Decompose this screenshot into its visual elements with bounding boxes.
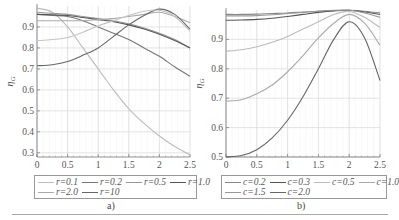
series-line bbox=[37, 12, 190, 48]
legend-label: r=0.1 bbox=[56, 177, 78, 187]
legend-label: c=0.5 bbox=[332, 177, 355, 187]
legend-item: c=0.5 bbox=[314, 177, 355, 187]
legend-item: r=0.2 bbox=[82, 177, 122, 187]
line-chart-b: 00.511.522.50.50.60.70.80.9ηηG bbox=[197, 0, 394, 170]
caption-b: b) bbox=[297, 200, 305, 211]
y-tick-label: 0.8 bbox=[22, 43, 34, 53]
y-tick-label: 0.3 bbox=[22, 148, 34, 158]
x-axis-label: η bbox=[301, 169, 306, 170]
y-tick-label: 0.8 bbox=[211, 64, 223, 74]
legend-label: c=0.3 bbox=[288, 177, 311, 187]
x-tick-label: 1 bbox=[285, 160, 290, 170]
x-axis-label: η bbox=[111, 169, 116, 170]
chart-panel-a: 00.511.522.50.30.40.50.60.70.80.9ηηG r=0… bbox=[0, 0, 197, 220]
bottom-divider bbox=[12, 214, 388, 215]
legend-swatch-icon bbox=[225, 182, 241, 183]
legend-item: c=2.0 bbox=[270, 187, 311, 197]
x-tick-label: 0.5 bbox=[251, 160, 263, 170]
legend-label: r=0.2 bbox=[100, 177, 122, 187]
y-axis-label: ηG bbox=[197, 78, 206, 88]
chart-panel-b: 00.511.522.50.50.60.70.80.9ηηG c=0.2c=0.… bbox=[197, 0, 394, 220]
series-line bbox=[226, 14, 380, 101]
x-tick-label: 1.5 bbox=[312, 160, 324, 170]
legend-label: r=10 bbox=[100, 187, 120, 197]
y-tick-label: 0.9 bbox=[211, 34, 223, 44]
x-tick-label: 1.5 bbox=[123, 160, 135, 170]
legend-swatch-icon bbox=[38, 182, 54, 183]
legend-label: c=0.2 bbox=[243, 177, 266, 187]
legend-item: r=2.0 bbox=[38, 187, 78, 197]
y-tick-label: 0.5 bbox=[22, 106, 34, 116]
line-chart-a: 00.511.522.50.30.40.50.60.70.80.9ηηG bbox=[0, 0, 197, 170]
legend-a: r=0.1r=0.2r=0.5r=1.0 r=2.0r=10 bbox=[34, 175, 197, 199]
y-tick-label: 0.7 bbox=[22, 64, 34, 74]
legend-swatch-icon bbox=[170, 182, 186, 183]
legend-swatch-icon bbox=[82, 182, 98, 183]
legend-label: c=1.5 bbox=[243, 187, 266, 197]
y-tick-label: 0.6 bbox=[211, 123, 223, 133]
legend-label: c=2.0 bbox=[288, 187, 311, 197]
legend-item: c=1.0 bbox=[359, 177, 399, 187]
x-tick-label: 0 bbox=[224, 160, 229, 170]
y-tick-label: 0.5 bbox=[211, 152, 223, 162]
legend-swatch-icon bbox=[82, 192, 98, 193]
legend-item: c=0.2 bbox=[225, 177, 266, 187]
legend-label: r=2.0 bbox=[56, 187, 78, 197]
x-tick-label: 2 bbox=[157, 160, 162, 170]
x-tick-label: 0.5 bbox=[62, 160, 74, 170]
y-axis-label: ηG bbox=[4, 76, 17, 86]
x-tick-label: 1 bbox=[96, 160, 101, 170]
caption-a: a) bbox=[107, 200, 115, 211]
legend-swatch-icon bbox=[126, 182, 142, 183]
series-line bbox=[226, 22, 380, 157]
legend-item: c=1.5 bbox=[225, 187, 266, 197]
x-tick-label: 2.5 bbox=[184, 160, 196, 170]
legend-item: r=0.5 bbox=[126, 177, 166, 187]
legend-swatch-icon bbox=[270, 182, 286, 183]
legend-swatch-icon bbox=[359, 182, 375, 183]
legend-b: c=0.2c=0.3c=0.5c=1.0 c=1.5c=2.0 bbox=[221, 175, 387, 199]
legend-swatch-icon bbox=[314, 182, 330, 183]
legend-swatch-icon bbox=[270, 192, 286, 193]
y-tick-label: 0.4 bbox=[22, 127, 34, 137]
y-tick-label: 0.9 bbox=[22, 22, 34, 32]
series-line bbox=[37, 8, 190, 155]
y-tick-label: 0.7 bbox=[211, 93, 223, 103]
legend-swatch-icon bbox=[38, 192, 54, 193]
x-tick-label: 0 bbox=[35, 160, 40, 170]
series-line bbox=[37, 14, 190, 76]
legend-label: c=1.0 bbox=[377, 177, 399, 187]
legend-item: r=0.1 bbox=[38, 177, 78, 187]
legend-item: c=0.3 bbox=[270, 177, 311, 187]
x-tick-label: 2.5 bbox=[374, 160, 386, 170]
x-tick-label: 2 bbox=[347, 160, 352, 170]
y-tick-label: 0.6 bbox=[22, 85, 34, 95]
legend-label: r=0.5 bbox=[144, 177, 166, 187]
legend-swatch-icon bbox=[225, 192, 241, 193]
legend-item: r=10 bbox=[82, 187, 120, 197]
